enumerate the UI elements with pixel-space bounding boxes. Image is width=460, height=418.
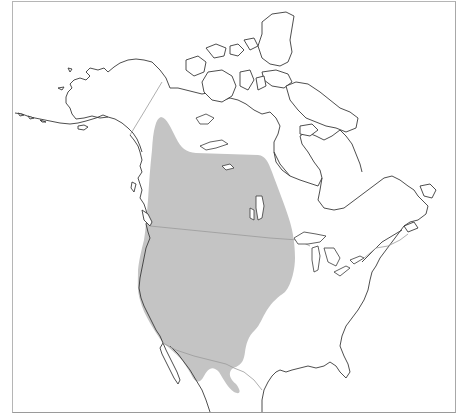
newfoundland xyxy=(420,184,436,198)
labrador-coastline xyxy=(318,176,428,210)
great-bear-lake xyxy=(196,114,214,124)
kodiak-island xyxy=(78,125,88,130)
ellesmere-island xyxy=(258,12,294,66)
lake-ontario xyxy=(350,256,364,264)
nova-scotia xyxy=(404,222,418,232)
north-america-map xyxy=(0,0,460,418)
prince-of-wales-island xyxy=(240,70,254,90)
great-slave-lake xyxy=(200,140,228,150)
hudson-bay-south xyxy=(274,152,290,176)
lake-michigan xyxy=(312,246,320,272)
parry-islands xyxy=(206,38,258,58)
st-lawrence-river xyxy=(362,230,402,262)
lake-manitoba xyxy=(250,208,254,220)
haida-gwaii xyxy=(131,182,136,192)
banks-island xyxy=(186,56,206,76)
aleutian-islands xyxy=(18,113,46,122)
southampton-island xyxy=(300,124,318,136)
lake-erie xyxy=(334,266,350,276)
somerset-island xyxy=(256,76,266,90)
us-canada-border-east xyxy=(364,234,408,258)
st-lawrence-island xyxy=(58,68,72,90)
baffin-island xyxy=(286,82,358,132)
atlantic-coastline xyxy=(324,206,428,378)
victoria-island xyxy=(202,70,236,102)
lake-superior xyxy=(294,232,326,244)
lake-huron xyxy=(324,248,340,266)
gulf-coast-mexico xyxy=(262,366,324,412)
